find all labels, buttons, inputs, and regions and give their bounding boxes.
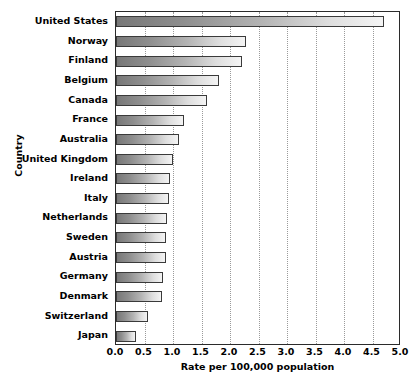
bar: [116, 232, 166, 243]
bar-row: [116, 150, 399, 170]
bar-row: [116, 91, 399, 111]
y-axis-tick-label: Finland: [68, 50, 108, 70]
y-axis-tick-label: Canada: [68, 90, 108, 110]
x-axis-title: Rate per 100,000 population: [115, 361, 400, 372]
x-axis-tick-label: 2.5: [249, 346, 266, 357]
bar-row: [116, 287, 399, 307]
bar-series: [116, 12, 399, 344]
x-axis-tick-label: 4.0: [335, 346, 352, 357]
y-axis-tick-label: Denmark: [60, 286, 108, 306]
plot-area: [115, 11, 400, 345]
bar-chart: Country United StatesNorwayFinlandBelgiu…: [0, 0, 415, 378]
y-axis-tick-label: Ireland: [70, 168, 108, 188]
bar: [116, 16, 384, 27]
bar-row: [116, 12, 399, 32]
bar: [116, 193, 169, 204]
x-axis-tick-label: 4.5: [363, 346, 380, 357]
bar-row: [116, 71, 399, 91]
y-axis-tick-label: Norway: [68, 31, 108, 51]
bar-row: [116, 169, 399, 189]
bar: [116, 115, 184, 126]
bar-row: [116, 32, 399, 52]
x-axis-tick-label: 2.0: [221, 346, 238, 357]
bar: [116, 331, 136, 342]
bar: [116, 56, 242, 67]
y-axis-tick-label: United States: [35, 11, 108, 31]
y-axis-tick-label: Netherlands: [42, 207, 108, 227]
bar-row: [116, 326, 399, 346]
bar-row: [116, 110, 399, 130]
bar: [116, 173, 170, 184]
x-axis-tick-label: 0.5: [135, 346, 152, 357]
y-axis-tick-label: United Kingdom: [22, 149, 108, 169]
y-axis-tick-label: Switzerland: [45, 306, 108, 326]
x-axis-tick-label: 3.0: [278, 346, 295, 357]
bar: [116, 134, 179, 145]
bar: [116, 291, 162, 302]
y-axis-tick-label: Germany: [60, 266, 108, 286]
bar: [116, 95, 207, 106]
bar: [116, 154, 173, 165]
x-axis-tick-label: 0.0: [107, 346, 124, 357]
y-axis-tick-label: Belgium: [64, 70, 108, 90]
x-axis-tick-label: 1.5: [192, 346, 209, 357]
bar-row: [116, 51, 399, 71]
bar-row: [116, 248, 399, 268]
x-axis-tick-label: 5.0: [392, 346, 409, 357]
bar: [116, 311, 148, 322]
bar-row: [116, 189, 399, 209]
bar: [116, 75, 219, 86]
bar-row: [116, 208, 399, 228]
bar-row: [116, 130, 399, 150]
y-axis-tick-label: Italy: [84, 188, 108, 208]
y-axis-tick-label: Sweden: [66, 227, 108, 247]
bar-row: [116, 267, 399, 287]
y-axis-tick-labels: United StatesNorwayFinlandBelgiumCanadaF…: [0, 11, 112, 345]
x-axis-tick-label: 1.0: [164, 346, 181, 357]
x-axis-tick-labels: 0.00.51.01.52.02.53.03.54.04.55.0: [115, 346, 400, 360]
y-axis-tick-label: Japan: [78, 325, 108, 345]
bar: [116, 213, 167, 224]
y-axis-tick-label: France: [72, 109, 108, 129]
bar: [116, 272, 163, 283]
bar: [116, 36, 246, 47]
x-axis-tick-label: 3.5: [306, 346, 323, 357]
y-axis-tick-label: Austria: [69, 247, 108, 267]
bar: [116, 252, 166, 263]
bar-row: [116, 228, 399, 248]
bar-row: [116, 307, 399, 327]
y-axis-tick-label: Australia: [60, 129, 108, 149]
